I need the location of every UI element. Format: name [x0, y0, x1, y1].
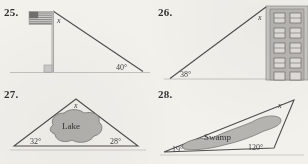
problem-27-unknown-label: x — [73, 101, 78, 110]
problem-28-angle-left-label: 19° — [172, 145, 183, 154]
problem-27-angle-right-label: 28° — [110, 137, 121, 146]
sight-line — [170, 7, 266, 79]
problem-27-angle-left-label: 32° — [30, 137, 41, 146]
problem-25-figure: x 40° — [0, 0, 154, 82]
problem-28-angle-right-label: 120° — [248, 143, 263, 152]
problem-26-angle-label: 38° — [180, 70, 191, 79]
problem-28: 28. Swamp x 19° 120° — [154, 82, 308, 164]
problem-28-region-label: Swamp — [204, 132, 232, 142]
problem-25-angle-label: 40° — [116, 63, 127, 72]
problem-27-figure: Lake x 32° 28° — [0, 82, 154, 164]
problem-26-unknown-label: x — [257, 13, 262, 22]
problem-28-unknown-label: x — [277, 101, 282, 110]
problem-25-unknown-label: x — [56, 16, 61, 25]
american-flag-icon — [29, 12, 52, 25]
exercise-figure-page: 25. — [0, 0, 308, 164]
problem-27: 27. Lake x 32° 28° — [0, 82, 154, 164]
problem-25: 25. — [0, 0, 154, 82]
right-angle-marker — [44, 65, 52, 72]
problem-26-figure: x 38° — [154, 0, 308, 82]
problem-26: 26. — [154, 0, 308, 82]
sight-line — [53, 11, 143, 72]
swamp-region — [182, 116, 281, 150]
apartment-building-icon — [266, 6, 308, 80]
problem-28-figure: Swamp x 19° 120° — [154, 82, 308, 164]
problem-27-region-label: Lake — [62, 121, 80, 131]
